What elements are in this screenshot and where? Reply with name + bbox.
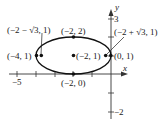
y-axis-arrow-icon xyxy=(109,9,114,16)
label-left-focus: (−2 − √3, 1) xyxy=(7,25,51,35)
point-left-vertex xyxy=(35,54,39,58)
label-top-point: (−2, 2) xyxy=(61,26,86,36)
label-right-vertex: (0, 1) xyxy=(114,51,134,61)
diagram-canvas xyxy=(0,0,163,122)
label-center-point: (−2, 1) xyxy=(76,51,101,61)
point-center xyxy=(72,54,76,58)
x-axis-label: x xyxy=(123,63,127,73)
tick-label-y-neg2: −2 xyxy=(114,107,124,117)
label-right-focus: (−2 + √3, 1) xyxy=(114,27,158,37)
point-left-focus xyxy=(40,54,44,58)
tick-label-x-neg5: −5 xyxy=(12,77,22,87)
point-right-focus xyxy=(104,54,108,58)
left-focus-leader xyxy=(41,33,42,55)
label-left-vertex: (−4, 1) xyxy=(7,51,32,61)
tick-label-y-3: 3 xyxy=(114,14,119,24)
label-bottom-point: (−2, 0) xyxy=(61,78,86,88)
points xyxy=(35,35,113,76)
y-axis-label: y xyxy=(115,2,119,12)
point-bottom xyxy=(72,72,76,76)
point-right-vertex xyxy=(109,54,113,58)
ellipse-diagram: y x −5 3 −2 (−2, 2) (−2, 0) (−2, 1) (−4,… xyxy=(0,0,163,122)
